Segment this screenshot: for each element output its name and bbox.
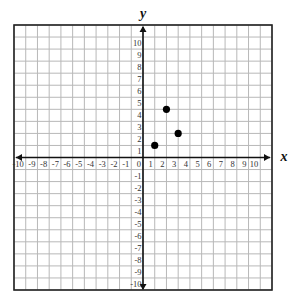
y-tick-label: 5 (137, 98, 141, 108)
y-tick-label: -1 (134, 171, 141, 181)
x-tick-label: 1 (148, 159, 152, 169)
y-tick-label: 7 (137, 74, 141, 84)
x-tick-label: -5 (75, 159, 82, 169)
x-axis-label: x (280, 149, 288, 164)
y-axis-label: y (138, 6, 147, 21)
x-tick-label: 6 (207, 159, 211, 169)
x-tick-label: -8 (40, 159, 47, 169)
y-tick-label: 4 (137, 110, 142, 120)
x-tick-label: -9 (28, 159, 35, 169)
data-point (163, 106, 170, 113)
y-tick-label: 9 (137, 50, 141, 60)
x-tick-label: 10 (250, 159, 259, 169)
data-point (175, 130, 182, 137)
x-axis-arrow-right-icon (264, 154, 270, 161)
y-tick-label: -9 (134, 267, 141, 277)
y-tick-label: -7 (134, 243, 141, 253)
y-tick-label: -3 (134, 195, 141, 205)
y-tick-label: -6 (134, 231, 141, 241)
data-point (151, 142, 158, 149)
x-tick-label: 2 (160, 159, 164, 169)
y-axis-arrow-up-icon (140, 26, 147, 32)
x-tick-label: 3 (172, 159, 176, 169)
y-tick-label: 8 (137, 62, 141, 72)
x-tick-label: 7 (219, 159, 223, 169)
x-tick-label: -6 (64, 159, 71, 169)
y-tick-label: -4 (134, 207, 142, 217)
y-tick-label: 3 (137, 122, 141, 132)
y-tick-label: -5 (134, 219, 141, 229)
x-tick-label: 5 (195, 159, 199, 169)
x-tick-label: -1 (122, 159, 129, 169)
x-tick-label: 4 (184, 159, 189, 169)
y-tick-label: 10 (133, 38, 142, 48)
y-tick-label: -8 (134, 255, 141, 265)
y-tick-label: 1 (137, 146, 141, 156)
x-tick-label: 8 (231, 159, 235, 169)
y-tick-label: -2 (134, 183, 141, 193)
x-tick-label: -10 (12, 159, 23, 169)
x-tick-label: -7 (52, 159, 59, 169)
x-tick-label: 0 (137, 159, 141, 169)
coordinate-plane: -10-9-8-7-6-5-4-3-2-1012345678910-10-9-8… (0, 0, 295, 300)
x-tick-label: -3 (99, 159, 106, 169)
x-tick-label: 9 (242, 159, 246, 169)
x-tick-label: -4 (87, 159, 95, 169)
x-tick-label: -2 (110, 159, 117, 169)
y-tick-label: 6 (137, 86, 141, 96)
y-tick-label: -10 (130, 279, 141, 289)
y-tick-label: 2 (137, 134, 141, 144)
